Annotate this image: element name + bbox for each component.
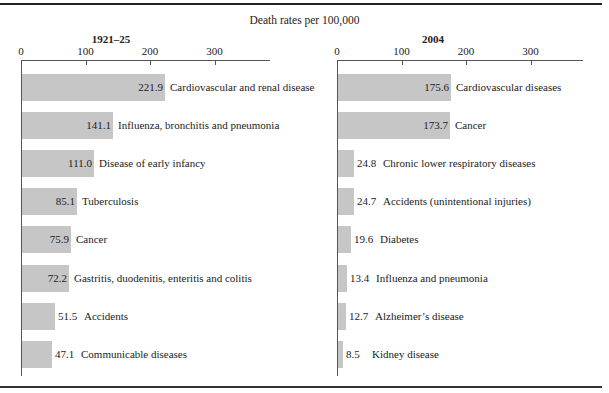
bar-value-label: 24.7 (357, 188, 376, 215)
bar-category-label: Kidney disease (372, 341, 439, 368)
x-tick-mark (466, 60, 467, 65)
bar-value-label: 175.6 (338, 74, 449, 101)
x-tick-label: 0 (317, 45, 357, 57)
panel-title: 2004 (393, 33, 473, 45)
x-tick-label: 300 (511, 45, 551, 57)
bar (338, 150, 354, 177)
panel-2004: 2004 0100200300175.6Cardiovascular disea… (0, 0, 609, 393)
bar-value-label: 19.6 (354, 226, 373, 253)
bar-category-label: Influenza and pneumonia (376, 265, 488, 292)
bar-category-label: Cardiovascular diseases (456, 74, 561, 101)
x-tick-mark (531, 60, 532, 65)
x-tick-label: 100 (382, 45, 422, 57)
bar-value-label: 12.7 (349, 303, 368, 330)
bar (338, 303, 346, 330)
bar (338, 341, 343, 368)
bar-value-label: 13.4 (350, 265, 369, 292)
x-tick-mark (402, 60, 403, 65)
bar-value-label: 8.5 (346, 341, 360, 368)
bar-category-label: Diabetes (380, 226, 418, 253)
bar-value-label: 24.8 (357, 150, 376, 177)
x-tick-label: 200 (446, 45, 486, 57)
bar (338, 265, 347, 292)
bar-category-label: Accidents (unintentional injuries) (383, 188, 531, 215)
bottom-rule (0, 386, 602, 388)
bar-category-label: Chronic lower respiratory diseases (383, 150, 535, 177)
bar-value-label: 173.7 (338, 112, 448, 139)
bar (338, 188, 354, 215)
bar-category-label: Cancer (455, 112, 486, 139)
bar (338, 226, 351, 253)
bar-category-label: Alzheimer’s disease (375, 303, 464, 330)
x-axis (337, 60, 583, 61)
